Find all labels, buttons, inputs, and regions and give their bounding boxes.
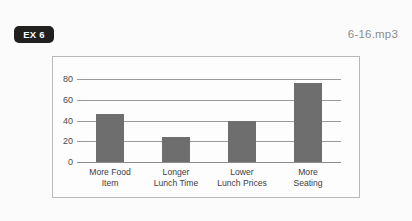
bar [162, 137, 190, 162]
x-axis-label-line: Lunch Prices [204, 178, 280, 189]
x-axis-label: LongerLunch Time [138, 167, 214, 188]
y-axis-tick-0: 0 [68, 157, 73, 167]
x-axis-label-line: Seating [270, 178, 346, 189]
x-axis-label: More FoodItem [72, 167, 148, 188]
gridline-0: 0 [77, 162, 341, 163]
bar-group: MoreSeating [275, 79, 341, 162]
chart-panel: 020406080 More FoodItemLongerLunch TimeL… [52, 56, 360, 198]
x-axis-label: LowerLunch Prices [204, 167, 280, 188]
x-axis-label-line: Longer [138, 167, 214, 178]
x-axis-label-line: Lunch Time [138, 178, 214, 189]
y-axis-tick-40: 40 [63, 116, 73, 126]
x-axis-label-line: More [270, 167, 346, 178]
x-axis-label: MoreSeating [270, 167, 346, 188]
bar [228, 121, 256, 163]
y-axis-tick-60: 60 [63, 95, 73, 105]
bar-series: More FoodItemLongerLunch TimeLowerLunch … [77, 79, 341, 162]
exercise-badge-label: EX 6 [23, 29, 44, 40]
plot-area: 020406080 More FoodItemLongerLunch TimeL… [77, 79, 341, 162]
audio-filename-label: 6-16.mp3 [348, 28, 398, 40]
bar [294, 83, 322, 162]
bar-group: LowerLunch Prices [209, 79, 275, 162]
header-row: EX 6 6-16.mp3 [0, 0, 412, 50]
x-axis-label-line: More Food [72, 167, 148, 178]
x-axis-label-line: Lower [204, 167, 280, 178]
y-axis-tick-20: 20 [63, 136, 73, 146]
bar [96, 114, 124, 162]
x-axis-label-line: Item [72, 178, 148, 189]
bar-group: LongerLunch Time [143, 79, 209, 162]
exercise-badge: EX 6 [14, 26, 54, 43]
bar-group: More FoodItem [77, 79, 143, 162]
y-axis-tick-80: 80 [63, 74, 73, 84]
